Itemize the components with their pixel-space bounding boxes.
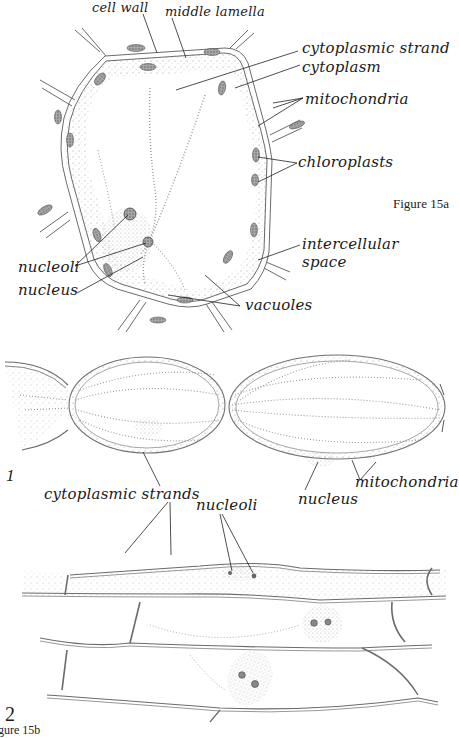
label-vacuoles: vacuoles [245,297,312,313]
panel-1-number: 1 [6,466,15,486]
label-cell-wall: cell wall [92,1,148,15]
label-chloroplasts: chloroplasts [298,154,393,170]
figure-15b-caption-partial: gure 15b [0,723,40,738]
label-space: space [302,254,347,270]
label-nucleoli-a: nucleoli [18,259,80,275]
figure-15a-caption: Figure 15a [393,196,449,212]
label-nucleus-b: nucleus [298,491,358,507]
label-middle-lamella: middle lamella [165,5,265,19]
label-cytoplasmic-strands: cytoplasmic strands [44,486,200,502]
nucleolus-1 [124,208,136,220]
fig-b-panel-1-cells [5,355,445,467]
label-mitochondria-b: mitochondria [355,474,459,490]
fig-b-panel-2-cells [22,563,446,722]
label-nucleus-a: nucleus [18,282,78,298]
label-nucleoli-b: nucleoli [196,497,258,513]
label-intercellular: intercellular [302,236,399,252]
label-cytoplasm: cytoplasm [302,59,381,75]
nucleolus-2 [143,237,153,247]
label-mitochondria-a: mitochondria [305,91,409,107]
label-cytoplasmic-strand: cytoplasmic strand [302,40,450,56]
